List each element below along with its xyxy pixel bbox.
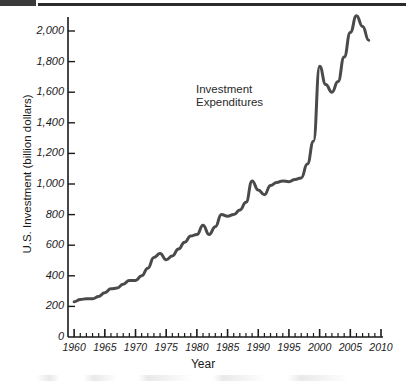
investment-expenditures-chart-figure: 02004006008001,0001,2001,4001,6001,8002,… xyxy=(0,0,406,383)
y-axis-tick-label: 2,000 xyxy=(36,25,64,36)
x-axis-tick-label: 1965 xyxy=(93,341,116,353)
y-axis-tick-label: 600 xyxy=(46,239,64,250)
series-annotation-label: Investment Expenditures xyxy=(196,83,263,109)
y-axis-tick-label: 200 xyxy=(46,300,64,311)
footer-caption-trace xyxy=(36,375,376,381)
x-axis-tick-label: 1970 xyxy=(124,341,147,353)
x-axis-tick-label: 2005 xyxy=(339,341,362,353)
investment-expenditures-line xyxy=(74,16,369,302)
x-axis-tick-label: 1985 xyxy=(216,341,239,353)
x-axis-tick-label: 1980 xyxy=(185,341,208,353)
y-axis-tick-label: 1,800 xyxy=(36,56,64,67)
y-axis-tick-label: 1,600 xyxy=(36,86,64,97)
y-axis-title: U.S. Investment (billion dollars) xyxy=(21,59,33,289)
y-axis-tick-label: 1,200 xyxy=(36,147,64,158)
y-axis-tick-labels: 02004006008001,0001,2001,4001,6001,8002,… xyxy=(12,0,64,383)
y-axis-tick-label: 400 xyxy=(46,270,64,281)
x-axis-tick-labels: 1960196519701975198019851990199520002005… xyxy=(0,341,406,357)
y-axis-ticks xyxy=(68,31,75,306)
y-axis-tick-label: 1,400 xyxy=(36,117,64,128)
y-axis-tick-label: 800 xyxy=(46,209,64,220)
x-axis-tick-label: 1975 xyxy=(155,341,178,353)
x-axis-title: Year xyxy=(0,357,406,371)
x-axis-tick-label: 2000 xyxy=(308,341,331,353)
x-axis-tick-label: 1995 xyxy=(277,341,300,353)
y-axis-tick-label: 1,000 xyxy=(36,178,64,189)
x-axis-tick-label: 2010 xyxy=(369,341,392,353)
x-axis-tick-label: 1990 xyxy=(247,341,270,353)
x-axis-tick-label: 1960 xyxy=(62,341,85,353)
x-axis-major-ticks xyxy=(74,329,381,337)
